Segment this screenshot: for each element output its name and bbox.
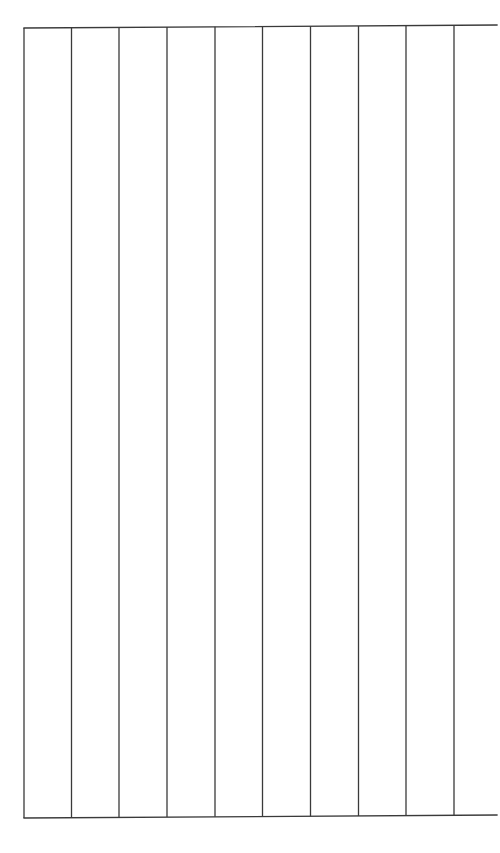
grid-column-dividers xyxy=(24,25,454,818)
column-grid xyxy=(0,0,500,853)
grid-top-border xyxy=(24,25,497,28)
blank-grid-page xyxy=(0,0,500,853)
grid-bottom-border xyxy=(24,815,497,818)
